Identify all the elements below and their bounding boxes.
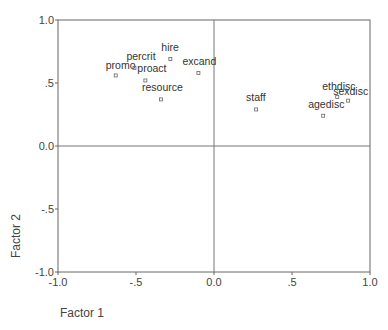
factor-plot: -1.0-.50.0.51.0 1.0.50.0-.5-1.0 promoper… [0,0,388,330]
point-label: resource [142,81,183,93]
y-axis-title: Factor 2 [9,214,23,258]
data-point-staff: staff [246,91,266,111]
x-tick-label: 0.0 [206,276,221,288]
point-label: hire [161,41,179,53]
square-marker-icon [322,114,325,117]
point-label: proact [137,62,166,74]
y-axis: 1.0.50.0-.5-1.0 [35,14,58,278]
x-axis-title: Factor 1 [60,306,104,320]
square-marker-icon [197,71,200,74]
point-label: sexdisc [333,85,368,97]
data-point-hire: hire [161,41,179,61]
point-label: percrit [126,50,155,62]
y-tick-label: 0.0 [39,140,54,152]
square-marker-icon [169,58,172,61]
y-tick-label: -.5 [41,203,54,215]
x-tick-label: .5 [287,276,296,288]
y-tick-label: .5 [45,77,54,89]
x-tick-label: -.5 [130,276,143,288]
y-tick-label: -1.0 [35,266,54,278]
x-tick-label: 1.0 [362,276,377,288]
point-label: staff [246,91,266,103]
x-axis: -1.0-.50.0.51.0 [49,272,378,288]
square-marker-icon [159,98,162,101]
data-point-resource: resource [142,81,183,101]
square-marker-icon [347,99,350,102]
square-marker-icon [255,108,258,111]
data-point-agedisc: agedisc [308,98,344,118]
data-point-proact: proact [137,62,166,82]
point-label: agedisc [308,98,344,110]
y-tick-label: 1.0 [39,14,54,26]
data-point-promo: promo [106,59,136,77]
point-label: excand [182,55,216,67]
data-points: promopercritproacthireexcandresourcestaf… [106,41,368,117]
data-point-excand: excand [182,55,216,75]
square-marker-icon [114,74,117,77]
